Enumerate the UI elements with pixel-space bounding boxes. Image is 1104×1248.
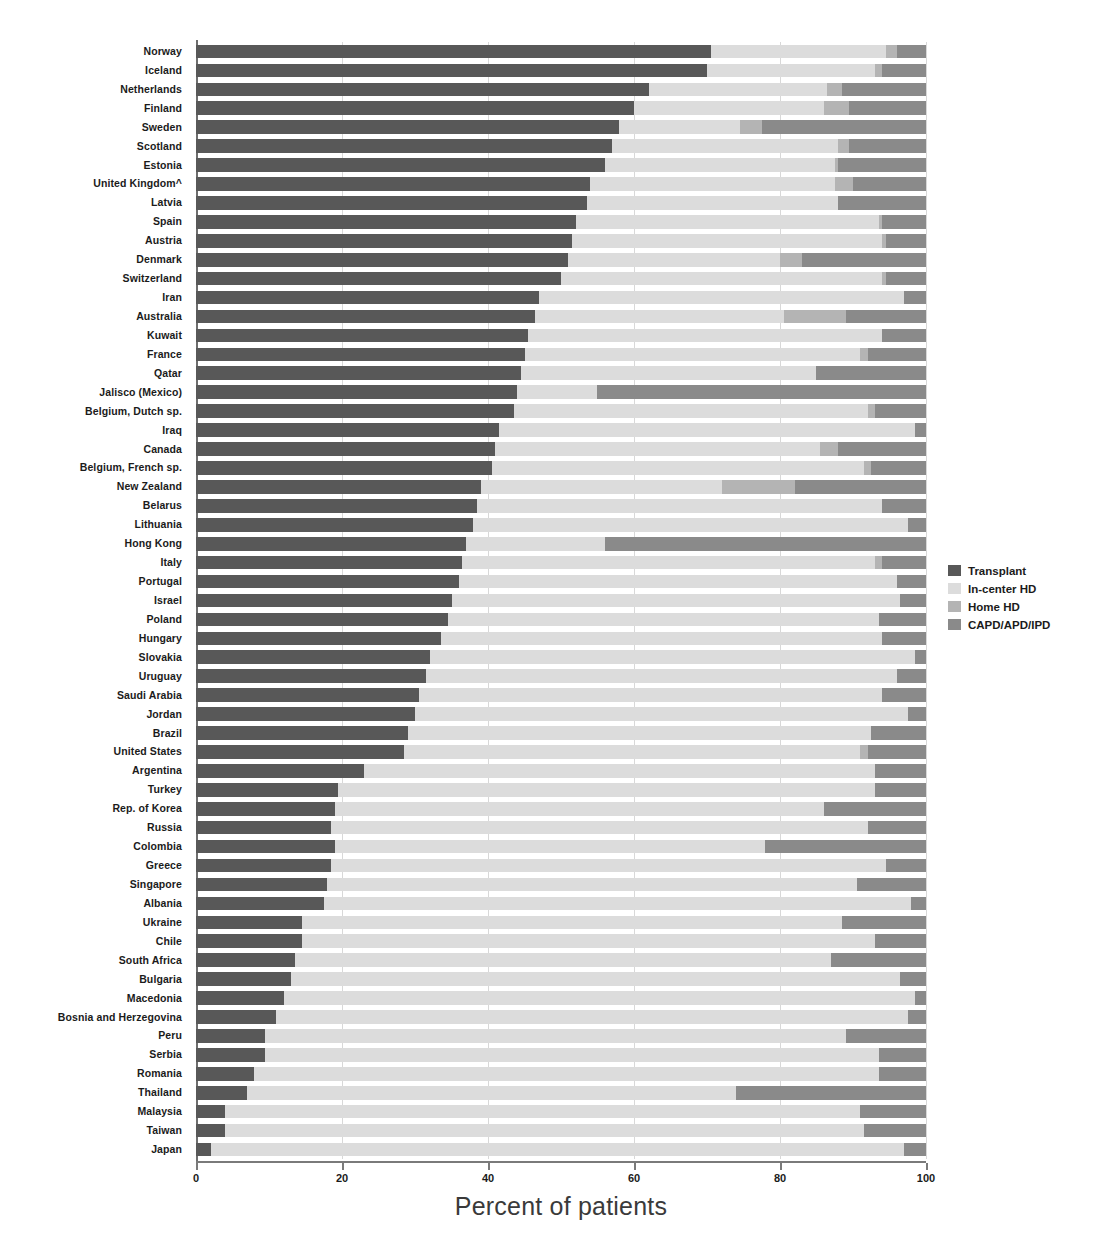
bar-segment-incenter-hd (561, 272, 882, 286)
bar-row (196, 764, 926, 778)
bar-segment-transplant (196, 348, 525, 362)
stacked-bar (196, 669, 926, 683)
bar-segment-capd-apd-ipd (875, 783, 926, 797)
bar-segment-incenter-hd (324, 897, 912, 911)
stacked-bar (196, 1029, 926, 1043)
bar-row (196, 726, 926, 740)
bar-segment-capd-apd-ipd (875, 764, 926, 778)
bar-segment-transplant (196, 594, 452, 608)
bar-segment-capd-apd-ipd (846, 310, 926, 324)
y-axis-label: Finland (144, 103, 182, 114)
bar-segment-incenter-hd (295, 953, 832, 967)
legend-label: In-center HD (968, 583, 1036, 595)
bar-segment-incenter-hd (331, 859, 886, 873)
bar-segment-transplant (196, 234, 572, 248)
x-axis-title: Percent of patients (196, 1192, 926, 1221)
stacked-bar (196, 594, 926, 608)
bar-segment-transplant (196, 196, 587, 210)
bar-segment-capd-apd-ipd (875, 934, 926, 948)
y-axis-label: Switzerland (123, 273, 182, 284)
y-axis-label: Qatar (154, 368, 182, 379)
bar-row (196, 1048, 926, 1062)
bar-segment-transplant (196, 764, 364, 778)
bar-segment-home-hd (875, 556, 882, 570)
bar-segment-transplant (196, 537, 466, 551)
bar-segment-capd-apd-ipd (838, 158, 926, 172)
bar-segment-transplant (196, 253, 568, 267)
bar-segment-incenter-hd (459, 575, 897, 589)
bar-row (196, 404, 926, 418)
stacked-bar (196, 329, 926, 343)
bar-segment-incenter-hd (539, 291, 904, 305)
stacked-bar (196, 158, 926, 172)
bar-segment-home-hd (835, 177, 853, 191)
bar-segment-transplant (196, 1029, 265, 1043)
bar-segment-incenter-hd (495, 442, 820, 456)
bar-segment-incenter-hd (254, 1067, 878, 1081)
x-tick-label: 80 (774, 1172, 786, 1184)
stacked-bar (196, 650, 926, 664)
y-axis-label: Brazil (153, 728, 182, 739)
stacked-bar (196, 1048, 926, 1062)
y-axis-label: Estonia (143, 160, 182, 171)
bar-segment-capd-apd-ipd (882, 215, 926, 229)
bar-segment-incenter-hd (473, 518, 907, 532)
stacked-bar (196, 120, 926, 134)
bar-segment-capd-apd-ipd (915, 423, 926, 437)
bar-segment-incenter-hd (404, 745, 860, 759)
y-axis-label: Argentina (132, 765, 182, 776)
bar-segment-transplant (196, 404, 514, 418)
bar-segment-incenter-hd (649, 83, 828, 97)
bar-segment-capd-apd-ipd (605, 537, 926, 551)
y-axis-label: Denmark (136, 254, 182, 265)
bar-segment-incenter-hd (265, 1048, 878, 1062)
legend-swatch-icon (948, 601, 961, 612)
y-axis-label: Austria (145, 235, 182, 246)
bar-row (196, 1124, 926, 1138)
bar-segment-capd-apd-ipd (846, 1029, 926, 1043)
bar-segment-incenter-hd (568, 253, 780, 267)
bar-segment-capd-apd-ipd (908, 1010, 926, 1024)
bar-row (196, 310, 926, 324)
y-axis-label: Hong Kong (125, 538, 182, 549)
bar-row (196, 972, 926, 986)
stacked-bar (196, 537, 926, 551)
bar-row (196, 423, 926, 437)
legend-item: CAPD/APD/IPD (948, 617, 1098, 632)
bar-row (196, 120, 926, 134)
bar-segment-transplant (196, 64, 707, 78)
bar-segment-home-hd (860, 348, 867, 362)
bar-segment-transplant (196, 1143, 211, 1157)
bar-row (196, 821, 926, 835)
stacked-bar (196, 821, 926, 835)
x-tick-60 (634, 1163, 636, 1170)
bar-segment-transplant (196, 385, 517, 399)
bar-segment-capd-apd-ipd (882, 688, 926, 702)
bar-row (196, 348, 926, 362)
x-tick-label: 60 (628, 1172, 640, 1184)
bar-segment-incenter-hd (590, 177, 835, 191)
bar-segment-transplant (196, 613, 448, 627)
bar-row (196, 480, 926, 494)
bar-segment-capd-apd-ipd (842, 916, 926, 930)
bar-segment-incenter-hd (525, 348, 861, 362)
bar-segment-transplant (196, 688, 419, 702)
bar-segment-incenter-hd (302, 916, 842, 930)
bar-segment-capd-apd-ipd (868, 821, 926, 835)
x-tick-label: 0 (193, 1172, 199, 1184)
bar-row (196, 101, 926, 115)
bar-segment-transplant (196, 707, 415, 721)
bar-segment-incenter-hd (247, 1086, 736, 1100)
bar-segment-incenter-hd (302, 934, 875, 948)
stacked-bar (196, 613, 926, 627)
bar-segment-home-hd (784, 310, 846, 324)
bar-segment-capd-apd-ipd (886, 272, 926, 286)
bar-segment-capd-apd-ipd (842, 83, 926, 97)
bar-segment-incenter-hd (535, 310, 783, 324)
stacked-bar (196, 234, 926, 248)
x-tick-80 (780, 1163, 782, 1170)
stacked-bar (196, 688, 926, 702)
stacked-bar (196, 1010, 926, 1024)
bar-segment-capd-apd-ipd (897, 575, 926, 589)
bar-segment-transplant (196, 272, 561, 286)
